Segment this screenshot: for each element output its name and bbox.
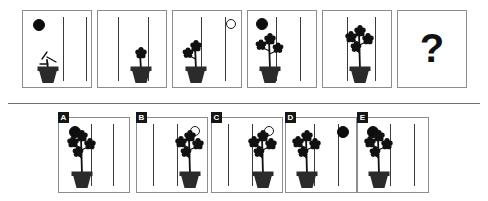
sequence-panel-4-content xyxy=(248,11,316,87)
option-c[interactable] xyxy=(211,117,283,193)
option-letter-c[interactable]: C xyxy=(211,112,222,123)
potted-plant-icon xyxy=(246,131,280,189)
potted-plant-icon xyxy=(179,32,213,84)
potted-plant-icon xyxy=(124,34,158,84)
potted-plant-icon xyxy=(31,36,65,84)
trellis-pole-2 xyxy=(113,124,114,186)
trellis-pole-2 xyxy=(300,17,301,81)
trellis-pole-2 xyxy=(414,124,415,186)
sequence-panel-3 xyxy=(172,10,242,88)
sun-icon xyxy=(33,19,45,31)
option-a[interactable] xyxy=(58,117,130,193)
option-d[interactable] xyxy=(285,117,357,193)
sequence-panel-question: ? xyxy=(397,10,467,88)
sequence-panel-5-content xyxy=(323,11,391,87)
potted-plant-icon xyxy=(65,131,99,189)
option-c-content xyxy=(212,118,282,192)
sun-icon xyxy=(337,126,349,138)
sequence-panel-3-content xyxy=(173,11,241,87)
trellis-pole-2 xyxy=(86,17,87,81)
potted-plant-icon xyxy=(290,131,324,189)
sequence-panel-question-content: ? xyxy=(398,11,466,87)
sequence-panel-5 xyxy=(322,10,392,88)
option-letter-e[interactable]: E xyxy=(357,112,368,123)
potted-plant-icon xyxy=(173,131,207,189)
question-mark: ? xyxy=(398,11,466,87)
option-d-content xyxy=(286,118,356,192)
trellis-pole-1 xyxy=(118,17,119,81)
trellis-pole-1 xyxy=(153,124,154,186)
option-letter-d[interactable]: D xyxy=(285,112,296,123)
potted-plant-icon xyxy=(343,26,377,84)
sequence-panel-1-content xyxy=(23,11,91,87)
option-letter-a[interactable]: A xyxy=(58,112,69,123)
option-b-content xyxy=(137,118,207,192)
sequence-panel-4 xyxy=(247,10,317,88)
section-divider xyxy=(8,103,480,104)
option-e[interactable] xyxy=(357,117,429,193)
option-a-content xyxy=(59,118,129,192)
sequence-panel-1 xyxy=(22,10,92,88)
potted-plant-icon xyxy=(253,29,287,84)
sequence-panel-2 xyxy=(97,10,167,88)
sequence-panel-2-content xyxy=(98,11,166,87)
option-e-content xyxy=(358,118,428,192)
visual-analogy-puzzle: ? ABCDE xyxy=(0,0,488,201)
moon-icon xyxy=(226,19,236,29)
option-letter-b[interactable]: B xyxy=(136,112,147,123)
option-b[interactable] xyxy=(136,117,208,193)
trellis-pole-1 xyxy=(228,124,229,186)
potted-plant-icon xyxy=(362,131,396,189)
